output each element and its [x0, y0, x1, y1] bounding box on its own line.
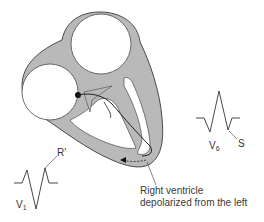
lead-v6-letter: V [209, 140, 216, 151]
lead-v1-label: V1 [16, 199, 27, 213]
caption: Right ventricle depolarized from the lef… [140, 185, 247, 209]
lead-v1-sub: 1 [23, 204, 27, 211]
ecg-v6-trace [196, 91, 240, 132]
caption-line-1: Right ventricle [140, 185, 247, 197]
ecg-v1-rprime-leader [45, 156, 57, 168]
right-atrium-chamber [71, 14, 131, 74]
ecg-v6 [196, 91, 240, 139]
lead-v6-label: V6 [209, 140, 220, 154]
heart [22, 12, 163, 167]
lead-v6-sub: 6 [216, 145, 220, 152]
left-atrium-chamber [22, 64, 78, 120]
s-wave-label: S [238, 138, 245, 149]
lead-v1-letter: V [16, 199, 23, 210]
caption-line-2: depolarized from the left [140, 197, 247, 209]
ecg-v6-s-leader [229, 131, 237, 139]
caption-leader-line [147, 162, 156, 185]
rprime-label: R′ [57, 147, 66, 158]
